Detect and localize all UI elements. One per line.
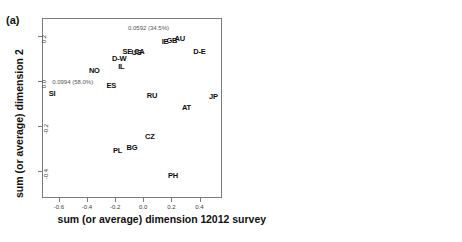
x-tick-label: -0.4: [82, 204, 92, 210]
data-point-label: PH: [168, 171, 178, 180]
x-tick-mark: [87, 198, 88, 202]
data-point-label: ES: [106, 80, 116, 89]
y-tick-label: 0.0: [41, 80, 47, 88]
inertia-annotation: 0.0994 (58.0%): [52, 79, 93, 85]
panel-a-x-axis-title: sum (or average) dimension 1: [42, 213, 222, 225]
data-point-label: CZ: [145, 132, 155, 141]
x-tick-mark: [115, 198, 116, 202]
x-tick-label: 0.0: [139, 204, 147, 210]
data-point-label: AT: [182, 102, 191, 111]
x-tick-label: 0.4: [195, 204, 203, 210]
panel-a-plot-area: SINOESILD-WSEUSCAIEGBAUD-ERUATJPCZBGPLPH…: [43, 19, 221, 197]
data-point-label: RU: [147, 91, 157, 100]
panel-a: (a) SINOESILD-WSEUSCAIEGBAUD-ERUATJPCZBG…: [0, 0, 231, 242]
survey-year-caption: 2012 survey: [206, 213, 266, 225]
figure-container: (a) SINOESILD-WSEUSCAIEGBAUD-ERUATJPCZBG…: [0, 0, 462, 242]
x-tick-label: 0.2: [167, 204, 175, 210]
data-point-label: AU: [175, 33, 185, 42]
data-point-label: D-W: [112, 54, 126, 63]
inertia-annotation: 0.0592 (34.5%): [128, 25, 169, 31]
panel-a-plot-frame: SINOESILD-WSEUSCAIEGBAUD-ERUATJPCZBGPLPH…: [42, 18, 222, 198]
data-point-label: CA: [134, 47, 144, 56]
data-point-label: NO: [89, 65, 100, 74]
y-tick-label: 0.2: [41, 35, 47, 43]
y-tick-label: -0.4: [43, 169, 49, 179]
y-tick-mark: [38, 126, 42, 127]
x-tick-mark: [171, 198, 172, 202]
data-point-label: JP: [209, 91, 218, 100]
x-tick-label: -0.6: [54, 204, 64, 210]
x-tick-label: -0.2: [110, 204, 120, 210]
data-point-label: PL: [113, 145, 122, 154]
y-tick-mark: [38, 171, 42, 172]
panel-a-y-axis-title: sum (or average) dimension 2: [13, 49, 25, 198]
y-tick-label: -0.2: [43, 124, 49, 134]
panel-b: (b) BGILSED-WCZATRUNOSIGBESAUD-EIEJPPHCA…: [231, 0, 462, 242]
data-point-label: BG: [126, 142, 137, 151]
x-tick-mark: [200, 198, 201, 202]
data-point-label: SI: [49, 88, 56, 97]
x-tick-mark: [59, 198, 60, 202]
x-tick-mark: [143, 198, 144, 202]
panel-a-tag: (a): [6, 14, 19, 26]
data-point-label: D-E: [193, 46, 205, 55]
